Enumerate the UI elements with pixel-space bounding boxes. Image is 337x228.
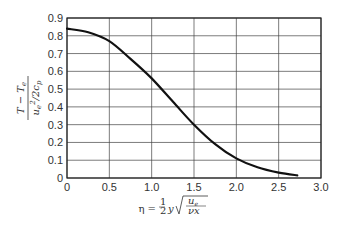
x-tick-label: 1.0 [144, 181, 159, 193]
data-curve [67, 29, 297, 176]
chart: 00.51.01.52.02.53.0 00.10.20.30.40.50.60… [0, 0, 337, 228]
x-tick-label: 0 [64, 181, 70, 193]
x-tick-label: 3.0 [313, 181, 328, 193]
y-tick-label: 0.8 [48, 30, 63, 42]
grid-lines [67, 18, 321, 178]
y-tick-labels: 00.10.20.30.40.50.60.70.80.9 [48, 12, 63, 184]
svg-text:T − Te: T − Te [15, 82, 28, 114]
svg-text:η =: η = [138, 203, 156, 214]
x-tick-label: 1.5 [186, 181, 201, 193]
x-tick-label: 2.5 [271, 181, 286, 193]
x-tick-label: 2.0 [229, 181, 244, 193]
y-tick-label: 0.7 [48, 48, 63, 60]
x-axis-label: η = 1 2 y ue νx [138, 195, 208, 216]
y-tick-label: 0.9 [48, 12, 63, 24]
y-tick-label: 0.3 [48, 119, 63, 131]
y-tick-label: 0.1 [48, 154, 63, 166]
y-tick-label: 0.6 [48, 65, 63, 77]
y-tick-label: 0.2 [48, 136, 63, 148]
svg-text:y: y [167, 203, 174, 214]
y-tick-label: 0.5 [48, 83, 63, 95]
svg-text:νx: νx [188, 205, 200, 216]
svg-text:ue2/2cp: ue2/2cp [29, 80, 43, 115]
svg-text:2: 2 [160, 205, 166, 216]
x-tick-label: 0.5 [102, 181, 117, 193]
y-tick-label: 0 [57, 172, 63, 184]
x-tick-labels: 00.51.01.52.02.53.0 [64, 181, 329, 193]
y-axis-label: T − Te ue2/2cp [15, 76, 43, 120]
y-tick-label: 0.4 [48, 101, 63, 113]
